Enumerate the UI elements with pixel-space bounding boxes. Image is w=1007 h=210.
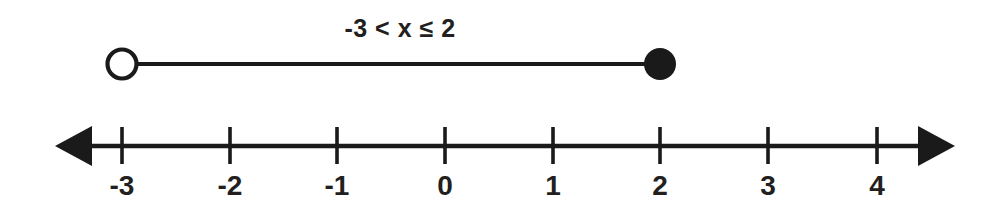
number-line-axis-group [55,126,955,166]
tick-label: 2 [652,170,668,201]
closed-circle-endpoint-icon [644,48,676,80]
number-line-canvas: -3 < x ≤ 2 -3 -2 -1 [0,0,1007,210]
interval-segment-group [108,48,677,80]
left-arrowhead-icon [55,126,92,166]
tick-labels-group: -3 -2 -1 0 1 2 3 4 [110,170,886,201]
tick-label: 4 [869,170,885,201]
open-circle-endpoint-icon [108,50,137,79]
tick-label: 1 [545,170,561,201]
inequality-expression: -3 < x ≤ 2 [344,14,455,42]
tick-label: 3 [760,170,776,201]
number-line-figure: -3 < x ≤ 2 -3 -2 -1 [0,0,1007,210]
right-arrowhead-icon [918,126,955,166]
tick-label: -3 [110,170,135,201]
tick-label: -1 [325,170,350,201]
tick-label: 0 [437,170,453,201]
tick-label: -2 [218,170,243,201]
